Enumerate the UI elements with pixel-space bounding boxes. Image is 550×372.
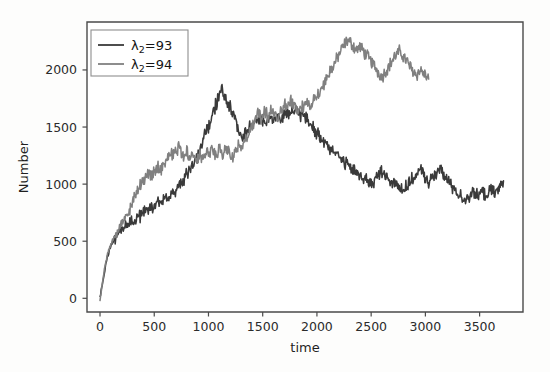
x-tick-label: 3500 (464, 319, 496, 334)
line-chart: 0500100015002000250030003500 05001000150… (0, 0, 550, 372)
x-tick-label: 0 (96, 319, 104, 334)
x-tick-label: 1000 (193, 319, 225, 334)
x-axis-title: time (290, 340, 319, 355)
y-tick-label: 1500 (45, 120, 77, 135)
y-axis-title: Number (16, 140, 31, 193)
chart-figure: 0500100015002000250030003500 05001000150… (0, 0, 550, 372)
x-tick-label: 1500 (247, 319, 279, 334)
legend-label-0: λ2=93 (131, 38, 172, 55)
y-tick-label: 0 (69, 291, 77, 306)
x-tick-label: 2500 (355, 319, 387, 334)
y-tick-label: 500 (53, 234, 77, 249)
y-tick-label: 2000 (45, 62, 77, 77)
legend-label-1: λ2=94 (131, 57, 172, 74)
x-tick-label: 500 (142, 319, 166, 334)
x-tick-label: 3000 (409, 319, 441, 334)
y-tick-label: 1000 (45, 177, 77, 192)
x-axis-ticks: 0500100015002000250030003500 (96, 312, 496, 334)
legend[interactable]: λ2=93 λ2=94 (91, 30, 188, 76)
y-axis-ticks: 0500100015002000 (45, 62, 87, 305)
x-tick-label: 2000 (301, 319, 333, 334)
